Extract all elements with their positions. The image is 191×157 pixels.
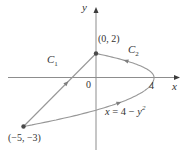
x-axis-label: x [172, 81, 177, 92]
dot-point-m5-m3 [21, 124, 25, 128]
parabola-line-figure: y x 0 4 (0, 2) (−5, −3) C1 C2 x = 4 − y2 [0, 0, 191, 157]
y-axis-label: y [82, 2, 87, 13]
origin-label: 0 [86, 80, 91, 90]
curve-label-c1: C1 [47, 54, 58, 68]
point-label-0-2: (0, 2) [98, 34, 120, 44]
c2-upper-direction-arrow [124, 60, 129, 64]
dot-point-0-2 [94, 51, 98, 55]
y-axis-arrowhead [94, 7, 99, 13]
equation-label: x = 4 − y2 [105, 105, 145, 117]
x-tick-label-4: 4 [149, 81, 154, 91]
point-label-m5-m3: (−5, −3) [8, 133, 41, 143]
c1-subscript: 1 [54, 60, 58, 68]
c2-subscript: 2 [135, 50, 139, 58]
curve-label-c2: C2 [128, 44, 139, 58]
